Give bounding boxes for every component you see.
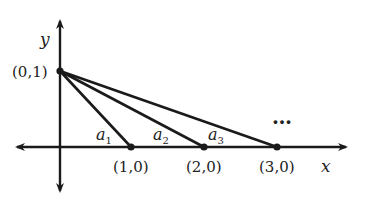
- point-2-0: [200, 143, 207, 150]
- point-apex: [56, 67, 63, 74]
- apex-label: (0,1): [12, 63, 48, 81]
- x-axis-label: x: [321, 156, 331, 176]
- segment-a2: [60, 71, 204, 147]
- point-3-0-label: (3,0): [259, 158, 295, 176]
- point-1-0-label: (1,0): [113, 158, 149, 176]
- point-3-0: [273, 143, 280, 150]
- ellipsis: …: [272, 105, 292, 129]
- point-1-0: [127, 143, 134, 150]
- segment-a1-label: a1: [96, 125, 112, 146]
- point-2-0-label: (2,0): [186, 158, 222, 176]
- coordinate-diagram: y x (0,1) (1,0) (2,0) (3,0) a1 a2 a3 …: [0, 0, 367, 200]
- y-axis-label: y: [39, 29, 50, 49]
